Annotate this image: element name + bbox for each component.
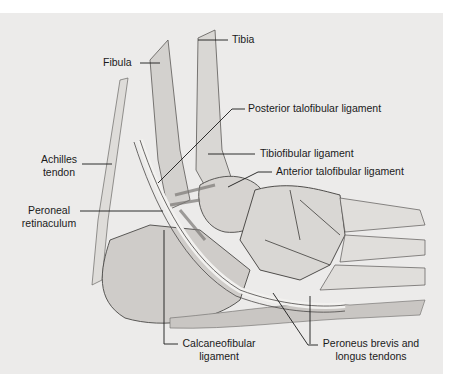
label-posterior-talofibular-ligament: Posterior talofibular ligament	[248, 102, 381, 115]
label-calcaneofibular-line1: Calcaneofibular	[180, 337, 258, 350]
label-achilles-tendon: Achilles tendon	[34, 153, 84, 179]
label-achilles-line1: Achilles	[34, 153, 84, 166]
label-peroneal-line1: Peroneal	[18, 204, 80, 217]
label-fibula: Fibula	[103, 56, 132, 69]
tarsal-bones	[240, 186, 345, 280]
tibia-bone	[196, 30, 232, 195]
label-peroneal-retinaculum: Peroneal retinaculum	[18, 204, 80, 230]
label-tibiofibular-ligament: Tibiofibular ligament	[260, 147, 354, 160]
label-calcaneofibular-ligament: Calcaneofibular ligament	[180, 337, 258, 363]
label-tibia: Tibia	[232, 33, 254, 46]
label-anterior-talofibular-ligament: Anterior talofibular ligament	[276, 165, 404, 178]
label-peroneus-line2: longus tendons	[318, 350, 424, 363]
metatarsal-bones	[340, 198, 425, 232]
label-peroneal-line2: retinaculum	[18, 217, 80, 230]
label-peroneus-tendons: Peroneus brevis and longus tendons	[318, 337, 424, 363]
ankle-illustration	[0, 0, 452, 374]
label-peroneus-line1: Peroneus brevis and	[318, 337, 424, 350]
calcaneus-bone	[102, 225, 250, 323]
label-achilles-line2: tendon	[34, 166, 84, 179]
label-calcaneofibular-line2: ligament	[180, 350, 258, 363]
